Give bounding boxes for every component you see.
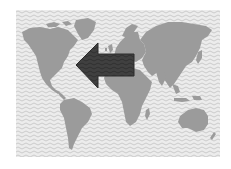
world-map-svg <box>16 10 220 157</box>
world-map <box>16 10 220 157</box>
